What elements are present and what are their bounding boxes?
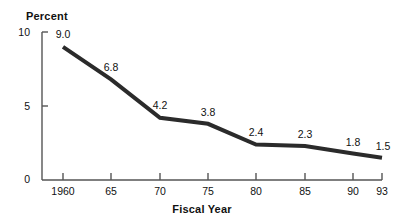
x-axis-tick-label-80: 80: [236, 185, 276, 197]
x-axis-tick-label-70: 70: [140, 185, 180, 197]
data-label-85: 2.3: [290, 128, 320, 140]
x-axis-tick-label-65: 65: [91, 185, 131, 197]
data-label-65: 6.8: [96, 61, 126, 73]
line-chart: Percent 10 5 0 9.0 6.8 4.2 3.8 2.4 2.3 1…: [0, 0, 404, 224]
data-label-90: 1.8: [338, 136, 368, 148]
data-label-93: 1.5: [368, 140, 398, 152]
x-axis-tick-label-85: 85: [285, 185, 325, 197]
x-axis-tick-label-1960: 1960: [43, 185, 83, 197]
x-axis-tick-label-93: 93: [362, 185, 402, 197]
x-axis-title: Fiscal Year: [0, 203, 404, 215]
x-axis-tick-label-75: 75: [188, 185, 228, 197]
data-label-75: 3.8: [193, 106, 223, 118]
data-label-70: 4.2: [145, 99, 175, 111]
data-label-80: 2.4: [241, 126, 271, 138]
data-label-1960: 9.0: [48, 28, 78, 40]
